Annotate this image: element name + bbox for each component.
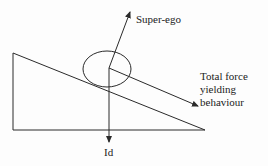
force-diagram: Super-ego Total force yielding behaviour… [0,0,268,166]
total-force-label-line1: Total force [200,70,248,83]
ego-ellipse [83,51,131,87]
total-force-arrow [109,68,198,106]
superego-label: Super-ego [136,13,181,26]
total-force-label-line3: behaviour [200,96,244,109]
id-label: Id [104,146,113,159]
total-force-label-line2: yielding [200,83,236,96]
superego-arrow [109,12,130,68]
